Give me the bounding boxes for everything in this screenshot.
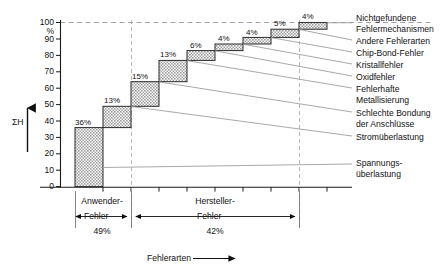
- legend-label-chip-bond-fehler: Chip-Bond-Fehler: [356, 48, 424, 58]
- bar-label-7: 5%: [274, 19, 286, 28]
- y-tick-10: 10: [30, 165, 54, 175]
- legend-label-nichtgefundene-1: Nichtgefundene: [356, 13, 416, 23]
- bar-andere-fehlerarten: [271, 29, 299, 37]
- bar-stromueberlastung: [103, 106, 131, 127]
- group-hersteller-line1: Hersteller-: [185, 196, 245, 206]
- bar-label-3: 13%: [160, 50, 176, 59]
- group-hersteller-line2: Fehler: [197, 211, 221, 221]
- bar-kristallfehler: [215, 44, 243, 51]
- x-axis-ticks: [103, 187, 327, 191]
- y-tick-30: 30: [30, 132, 54, 142]
- legend-label-stromueberlastung: Stromüberlastung: [356, 132, 424, 142]
- bar-label-6: 4%: [246, 28, 258, 37]
- bar-chip-bond-fehler: [243, 37, 271, 44]
- bar-label-2: 15%: [132, 72, 148, 81]
- legend-label-spannungs-2: überlastung: [356, 169, 401, 179]
- group-anwender-line1: Anwender-: [72, 196, 132, 206]
- chart-root: 100 % 90 80 70 60 50 40 30 20 10 0 ΣH 36…: [0, 0, 441, 273]
- legend-label-andere-fehlerarten: Andere Fehlerarten: [356, 36, 430, 46]
- legend-label-schlechte-bondung-2: der Anschlüsse: [356, 119, 414, 129]
- y-tick-40: 40: [30, 116, 54, 126]
- y-tick-50: 50: [30, 99, 54, 109]
- y-tick-60: 60: [30, 83, 54, 93]
- bar-label-4: 6%: [190, 41, 202, 50]
- bar-label-8: 4%: [302, 12, 314, 21]
- y-tick-80: 80: [30, 50, 54, 60]
- y-tick-70: 70: [30, 66, 54, 76]
- bar-label-1: 13%: [104, 96, 120, 105]
- legend-label-kristallfehler: Kristallfehler: [356, 60, 403, 70]
- legend-label-fehlerhafte-1: Fehlerhafte: [356, 84, 399, 94]
- legend-label-schlechte-bondung-1: Schlechte Bondung: [356, 108, 431, 118]
- bar-spannungsueberlastung: [75, 128, 103, 187]
- legend-label-spannungs-1: Spannungs-: [356, 158, 402, 168]
- bar-label-0: 36%: [75, 118, 91, 127]
- bar-label-5: 4%: [218, 34, 230, 43]
- bar-nichtgefundene-fehlermechanismen: [299, 23, 327, 30]
- y-tick-0: 0: [30, 181, 54, 191]
- y-axis-ticks: [56, 23, 61, 187]
- group-anwender-line2: Fehler: [84, 211, 108, 221]
- y-tick-90: 90: [30, 34, 54, 44]
- x-axis-title: Fehlerarten: [147, 253, 191, 263]
- legend-label-nichtgefundene-2: Fehlermechanismen: [356, 24, 434, 34]
- bar-fehlerhafte-metallisierung: [159, 60, 187, 81]
- y-tick-20: 20: [30, 148, 54, 158]
- legend-label-oxidfehler: Oxidfehler: [356, 72, 395, 82]
- y-axis-title: ΣH: [12, 117, 24, 127]
- bar-oxidfehler: [187, 51, 215, 61]
- legend-label-fehlerhafte-2: Metallisierung: [356, 95, 409, 105]
- group-hersteller-percent: 42%: [185, 226, 245, 236]
- group-anwender-percent: 49%: [72, 226, 132, 236]
- bar-schlechte-bondung: [131, 82, 159, 107]
